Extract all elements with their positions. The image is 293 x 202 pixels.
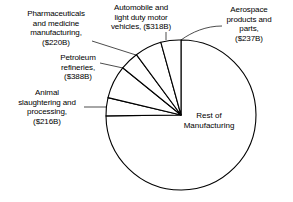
label-automobile: Automobile and light duty motor vehicles… (99, 3, 183, 32)
label-petroleum: Petroleum refineries, ($388B) (47, 53, 109, 82)
label-aerospace: Aerospace products and parts, ($237B) (213, 5, 285, 43)
label-rest-of-manufacturing: Rest of Manufacturing (168, 111, 250, 130)
label-animal-slaughtering: Animal slaughtering and processing, ($21… (6, 88, 88, 126)
label-pharmaceuticals: Pharmaceuticals and medicine manufacturi… (14, 9, 98, 47)
pie-chart-figure: Pharmaceuticals and medicine manufacturi… (0, 0, 293, 202)
